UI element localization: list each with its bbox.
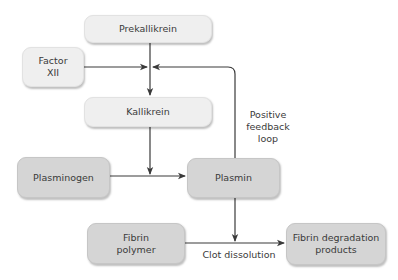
node-prekallikrein: Prekallikrein xyxy=(84,15,212,43)
node-fibrin-polymer-label-line1: Fibrin xyxy=(123,232,149,244)
node-plasmin-label: Plasmin xyxy=(215,172,252,184)
label-feedback-line3: loop xyxy=(240,133,296,145)
node-factor-xii-label-line1: Factor xyxy=(38,55,67,67)
node-fdp-label-line2: products xyxy=(315,244,357,256)
node-factor-xii-label-line2: XII xyxy=(47,67,59,79)
label-clot-dissolution: Clot dissolution xyxy=(196,249,282,261)
node-plasminogen: Plasminogen xyxy=(17,157,110,198)
label-positive-feedback-loop: Positive feedback loop xyxy=(240,109,296,145)
diagram-canvas: Prekallikrein Factor XII Kallikrein Plas… xyxy=(0,0,398,280)
node-fibrin-degradation-products: Fibrin degradation products xyxy=(286,223,386,265)
node-plasminogen-label: Plasminogen xyxy=(33,172,94,184)
node-fibrin-polymer: Fibrin polymer xyxy=(87,223,185,264)
label-feedback-line1: Positive xyxy=(240,109,296,121)
label-feedback-line2: feedback xyxy=(240,121,296,133)
label-clot-dissolution-text: Clot dissolution xyxy=(202,249,275,260)
node-fibrin-polymer-label-line2: polymer xyxy=(116,244,155,256)
node-fdp-label-line1: Fibrin degradation xyxy=(293,232,380,244)
node-kallikrein-label: Kallikrein xyxy=(126,106,170,118)
node-factor-xii: Factor XII xyxy=(22,47,84,87)
node-prekallikrein-label: Prekallikrein xyxy=(119,23,177,35)
node-plasmin: Plasmin xyxy=(187,158,280,198)
node-kallikrein: Kallikrein xyxy=(84,97,212,127)
